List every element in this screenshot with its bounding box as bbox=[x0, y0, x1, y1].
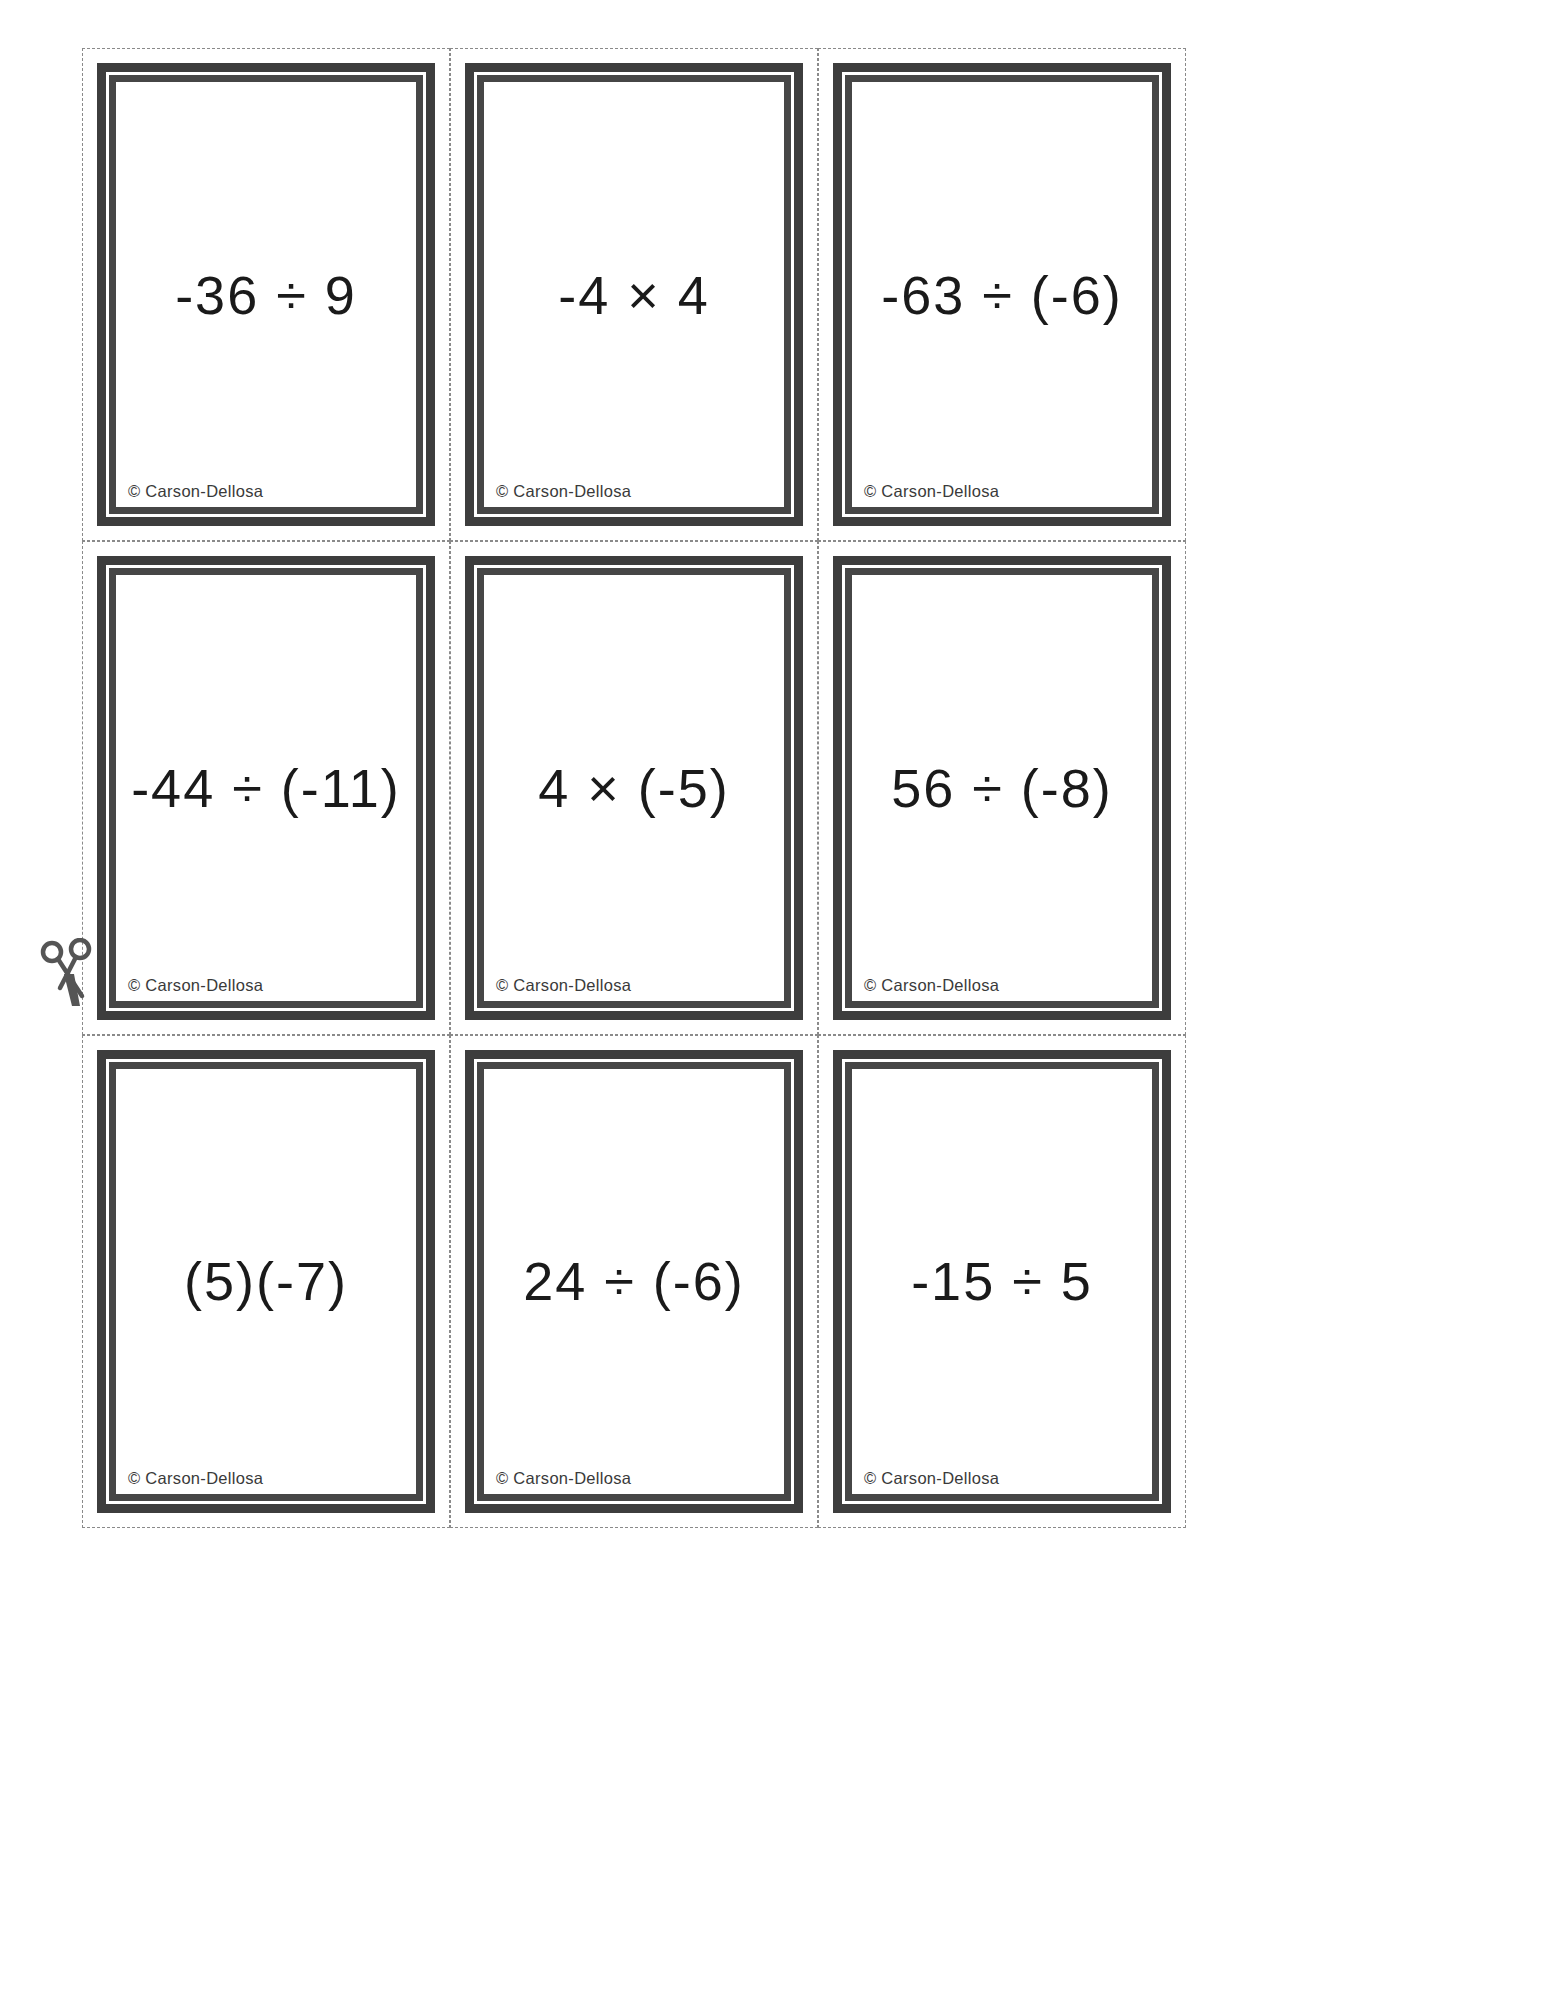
flash-card[interactable]: -15 ÷ 5 © Carson-Dellosa bbox=[833, 1050, 1171, 1513]
card-face: -36 ÷ 9 bbox=[119, 85, 413, 504]
card-face: -4 × 4 bbox=[487, 85, 781, 504]
card-expression: -36 ÷ 9 bbox=[175, 268, 357, 322]
cut-cell: 24 ÷ (-6) © Carson-Dellosa bbox=[450, 1035, 818, 1528]
card-face: -44 ÷ (-11) bbox=[119, 578, 413, 997]
cut-cell: 4 × (-5) © Carson-Dellosa bbox=[450, 541, 818, 1034]
card-expression: -44 ÷ (-11) bbox=[131, 761, 401, 815]
flash-card[interactable]: 24 ÷ (-6) © Carson-Dellosa bbox=[465, 1050, 803, 1513]
card-face: (5)(-7) bbox=[119, 1072, 413, 1491]
card-face: -15 ÷ 5 bbox=[855, 1072, 1149, 1491]
cut-cell: -44 ÷ (-11) © Carson-Dellosa bbox=[82, 541, 450, 1034]
card-copyright: © Carson-Dellosa bbox=[128, 976, 263, 995]
cut-cell: -63 ÷ (-6) © Carson-Dellosa bbox=[818, 48, 1186, 541]
cut-cell: -15 ÷ 5 © Carson-Dellosa bbox=[818, 1035, 1186, 1528]
scissors-icon bbox=[40, 938, 96, 1010]
card-expression: -15 ÷ 5 bbox=[911, 1254, 1093, 1308]
flash-card[interactable]: -63 ÷ (-6) © Carson-Dellosa bbox=[833, 63, 1171, 526]
cut-cell: 56 ÷ (-8) © Carson-Dellosa bbox=[818, 541, 1186, 1034]
cut-line-grid: -36 ÷ 9 © Carson-Dellosa -4 × 4 © Carson… bbox=[82, 48, 1186, 1528]
card-face: 56 ÷ (-8) bbox=[855, 578, 1149, 997]
flash-card[interactable]: -44 ÷ (-11) © Carson-Dellosa bbox=[97, 556, 435, 1019]
card-face: -63 ÷ (-6) bbox=[855, 85, 1149, 504]
card-expression: 24 ÷ (-6) bbox=[523, 1254, 745, 1308]
cut-cell: (5)(-7) © Carson-Dellosa bbox=[82, 1035, 450, 1528]
flash-card[interactable]: 4 × (-5) © Carson-Dellosa bbox=[465, 556, 803, 1019]
card-copyright: © Carson-Dellosa bbox=[864, 482, 999, 501]
flash-card[interactable]: 56 ÷ (-8) © Carson-Dellosa bbox=[833, 556, 1171, 1019]
flash-card[interactable]: -4 × 4 © Carson-Dellosa bbox=[465, 63, 803, 526]
card-copyright: © Carson-Dellosa bbox=[864, 976, 999, 995]
card-expression: (5)(-7) bbox=[184, 1254, 348, 1308]
printable-sheet: -36 ÷ 9 © Carson-Dellosa -4 × 4 © Carson… bbox=[0, 0, 1560, 2015]
card-face: 24 ÷ (-6) bbox=[487, 1072, 781, 1491]
card-face: 4 × (-5) bbox=[487, 578, 781, 997]
card-expression: -63 ÷ (-6) bbox=[881, 268, 1123, 322]
card-copyright: © Carson-Dellosa bbox=[864, 1469, 999, 1488]
flash-card[interactable]: (5)(-7) © Carson-Dellosa bbox=[97, 1050, 435, 1513]
card-copyright: © Carson-Dellosa bbox=[496, 1469, 631, 1488]
card-copyright: © Carson-Dellosa bbox=[128, 1469, 263, 1488]
cut-cell: -36 ÷ 9 © Carson-Dellosa bbox=[82, 48, 450, 541]
flash-card[interactable]: -36 ÷ 9 © Carson-Dellosa bbox=[97, 63, 435, 526]
card-expression: -4 × 4 bbox=[558, 268, 710, 322]
cut-cell: -4 × 4 © Carson-Dellosa bbox=[450, 48, 818, 541]
card-expression: 56 ÷ (-8) bbox=[891, 761, 1113, 815]
card-copyright: © Carson-Dellosa bbox=[128, 482, 263, 501]
card-expression: 4 × (-5) bbox=[538, 761, 730, 815]
card-copyright: © Carson-Dellosa bbox=[496, 976, 631, 995]
card-copyright: © Carson-Dellosa bbox=[496, 482, 631, 501]
